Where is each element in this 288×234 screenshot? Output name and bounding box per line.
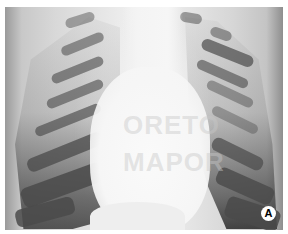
left-hemidiaphragm [90,202,185,230]
watermark-line-1: ORETO [123,110,220,141]
watermark-line-2: MAPOR [123,147,225,178]
panel-label: A [261,206,276,221]
xray-image: ORETO MAPOR [5,7,283,230]
